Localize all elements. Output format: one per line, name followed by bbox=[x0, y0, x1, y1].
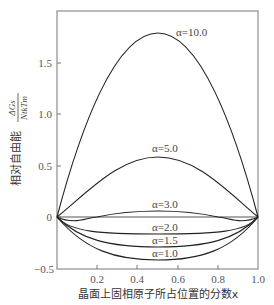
x-axis bbox=[97, 265, 218, 269]
free-energy-chart: 1.5 1.0 0.5 0 −0.5 0.2 0.4 0.6 0.8 1.0 α… bbox=[0, 0, 274, 305]
y-axis-formula-numerator: ΔGs bbox=[7, 100, 17, 117]
label-alpha-2: α=2.0 bbox=[152, 221, 178, 233]
x-tick-0.4: 0.4 bbox=[130, 273, 144, 285]
y-axis bbox=[57, 63, 61, 217]
y-tick-0.5: 0.5 bbox=[38, 160, 52, 172]
y-tick-1.5: 1.5 bbox=[38, 57, 52, 69]
x-tick-0.8: 0.8 bbox=[211, 273, 225, 285]
label-alpha-10: α=10.0 bbox=[176, 26, 208, 38]
x-axis-label: 晶面上固相原子所占位置的分数x bbox=[78, 287, 239, 301]
label-alpha-1: α=1.0 bbox=[152, 247, 178, 259]
y-tick-0: 0 bbox=[47, 211, 53, 223]
label-alpha-3: α=3.0 bbox=[152, 198, 178, 210]
y-axis-label: 相对自由能 bbox=[9, 131, 23, 186]
curve-alpha-10 bbox=[57, 33, 258, 217]
curve-alpha-3 bbox=[57, 211, 258, 221]
y-axis-formula-denominator: NtkTm bbox=[19, 96, 29, 122]
x-tick-0.6: 0.6 bbox=[171, 273, 185, 285]
y-tick-1.0: 1.0 bbox=[38, 108, 52, 120]
x-tick-0.2: 0.2 bbox=[90, 273, 104, 285]
label-alpha-1.5: α=1.5 bbox=[152, 234, 178, 246]
x-tick-1.0: 1.0 bbox=[251, 273, 265, 285]
y-tick--0.5: −0.5 bbox=[34, 263, 54, 275]
label-alpha-5: α=5.0 bbox=[152, 142, 178, 154]
